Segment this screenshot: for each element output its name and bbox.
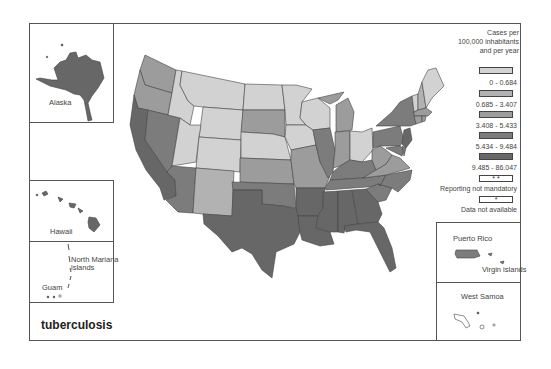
- legend-label-4: 5.434 - 9.484: [476, 143, 517, 150]
- region-florida: [344, 222, 396, 272]
- guam-label: Guam: [42, 283, 62, 292]
- map-title: tuberculosis: [41, 318, 112, 332]
- asterisk-icon: *: [495, 196, 498, 203]
- asterisk-icon: * *: [492, 175, 499, 182]
- legend-swatch-3: [479, 111, 513, 118]
- legend-swatch-5: [479, 153, 513, 160]
- region-rhode-island: [422, 116, 426, 122]
- region-puerto-rico: [455, 250, 480, 258]
- region-pennsylvania: [373, 126, 404, 148]
- legend-label-not-mandatory: Reporting not mandatory: [440, 185, 517, 192]
- region-wyoming: [199, 107, 243, 140]
- legend-swatch-not-available: *: [479, 196, 513, 203]
- legend-label-5: 9.485 - 86.047: [472, 164, 517, 171]
- region-alaska: [36, 52, 104, 121]
- region-new-mexico: [193, 168, 234, 216]
- legend-label-2: 0.685 - 3.407: [476, 101, 517, 108]
- region-new-york: [376, 96, 416, 126]
- region-maine: [422, 68, 444, 108]
- hawaii-label: Hawaii: [50, 227, 73, 236]
- legend-heading: Cases per 100,000 inhabitants and per ye…: [458, 28, 519, 55]
- region-new-jersey: [402, 128, 412, 148]
- legend-heading-line: Cases per: [458, 28, 519, 37]
- legend-label-3: 3.408 - 5.433: [476, 122, 517, 129]
- north-mariana-label-2: islands: [71, 263, 94, 272]
- legend-swatch-not-mandatory: * *: [479, 175, 513, 182]
- region-north-dakota: [243, 84, 285, 110]
- legend-swatch-1: [479, 67, 513, 74]
- region-kansas: [240, 158, 294, 184]
- region-west-samoa: [454, 314, 470, 328]
- legend-label-not-available: Data not available: [461, 206, 517, 213]
- region-hawaii: [42, 191, 100, 232]
- legend-swatch-4: [479, 132, 513, 139]
- legend-swatch-2: [479, 90, 513, 97]
- west-samoa-label: West Samoa: [461, 292, 504, 301]
- legend-label-1: 0 - 0.684: [489, 79, 517, 86]
- region-ohio: [350, 128, 373, 162]
- alaska-label: Alaska: [49, 98, 72, 107]
- legend-heading-line: and per year: [458, 46, 519, 55]
- virgin-islands-label: Virgin islands: [482, 265, 526, 274]
- puerto-rico-label: Puerto Rico: [453, 234, 492, 243]
- region-colorado: [196, 137, 241, 172]
- legend-heading-line: 100,000 inhabitants: [458, 37, 519, 46]
